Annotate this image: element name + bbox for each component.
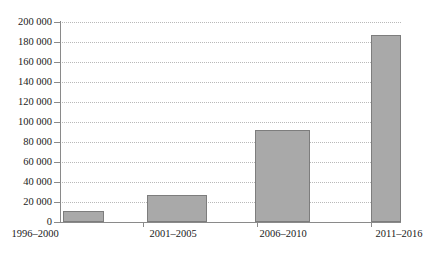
gridline <box>60 142 401 143</box>
x-axis-tick-label: 2001–2005 <box>149 228 196 240</box>
gridline <box>60 42 401 43</box>
bar-1996-2000 <box>63 211 104 223</box>
y-axis-tick-label: 80 000 <box>0 137 52 148</box>
y-axis-tick-label: 60 000 <box>0 157 52 168</box>
bar-chart: 200 000 180 000 160 000 140 000 120 000 … <box>0 0 438 253</box>
y-axis-labels: 200 000 180 000 160 000 140 000 120 000 … <box>0 0 52 253</box>
gridline <box>60 102 401 103</box>
x-axis-tick-label: 1996–2000 <box>11 228 58 240</box>
x-axis-line <box>60 222 401 223</box>
x-axis-tick-mark <box>143 222 144 227</box>
gridline <box>60 82 401 83</box>
y-axis-tick-label: 20 000 <box>0 197 52 208</box>
gridline <box>60 122 401 123</box>
bar-2001-2005 <box>147 195 207 223</box>
x-axis-tick-label: 2011–2016 <box>376 228 423 240</box>
y-axis-line <box>60 21 61 223</box>
bar-2011-2016 <box>371 35 401 222</box>
y-axis-tick-label: 140 000 <box>0 77 52 88</box>
y-axis-tick-label: 0 <box>0 217 52 228</box>
y-axis-tick-label: 120 000 <box>0 97 52 108</box>
x-axis-tick-mark <box>371 222 372 227</box>
gridline <box>60 62 401 63</box>
x-axis-tick-label: 2006–2010 <box>259 228 306 240</box>
gridline <box>60 22 401 23</box>
x-axis-tick-mark <box>257 222 258 227</box>
gridline <box>60 162 401 163</box>
gridline <box>60 182 401 183</box>
y-axis-tick-label: 160 000 <box>0 57 52 68</box>
bar-2006-2010 <box>255 130 310 222</box>
y-axis-tick-label: 200 000 <box>0 17 52 28</box>
y-axis-tick-label: 40 000 <box>0 177 52 188</box>
y-axis-tick-label: 180 000 <box>0 37 52 48</box>
y-axis-tick-label: 100 000 <box>0 117 52 128</box>
plot-area <box>60 22 401 222</box>
gridline <box>60 202 401 203</box>
